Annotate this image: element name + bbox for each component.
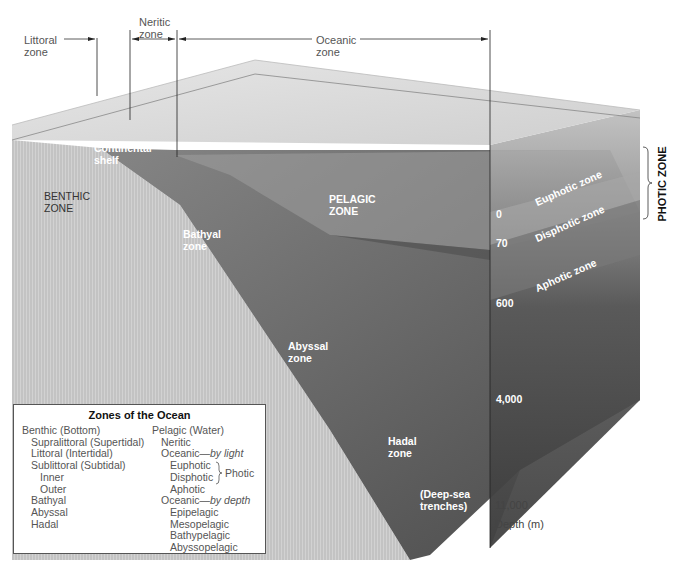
zones-legend: Zones of the Ocean Benthic (Bottom) Supr… [13,404,266,554]
depth-tick-11000: 11,000 [495,499,528,511]
bathyal-zone-label: Bathyal zone [183,228,221,252]
legend-item: Abyssal [22,507,144,519]
legend-item-emphasis: by light [210,447,243,459]
legend-item: Inner [22,472,144,484]
legend-benthic-column: Benthic (Bottom) Supralittoral (Supertid… [22,425,144,530]
legend-photic-label: Photic [225,467,254,479]
legend-title: Zones of the Ocean [14,409,265,421]
deep-sea-trenches-label: (Deep-sea trenches) [420,488,470,512]
legend-pelagic-column: Pelagic (Water) Neritic Oceanic—by light… [152,425,250,554]
neritic-zone-label: Neritic zone [139,16,170,40]
depth-tick-70: 70 [496,237,508,249]
photic-brace-icon [214,460,224,486]
photic-zone-label: PHOTIC ZONE [656,142,668,226]
legend-item-emphasis: by depth [210,494,250,506]
photic-brace [643,147,652,219]
hadal-zone-label: Hadal zone [388,435,417,459]
legend-benthic-heading: Benthic (Bottom) [22,425,144,437]
abyssal-zone-label: Abyssal zone [288,340,328,364]
littoral-zone-label: Littoral zone [24,34,57,58]
benthic-zone-label: BENTHIC ZONE [44,190,90,214]
legend-item: Hadal [22,519,144,531]
continental-shelf-label: Continental shelf [94,142,152,166]
legend-pelagic-heading: Pelagic (Water) [152,425,250,437]
depth-tick-4000: 4,000 [496,393,522,405]
legend-item: Abyssopelagic [152,542,250,554]
legend-item-text: Oceanic— [161,494,210,506]
legend-item-text: Oceanic— [161,447,210,459]
right-face [490,110,640,548]
depth-unit-label: Depth (m) [495,518,544,530]
legend-item: Epipelagic [152,507,250,519]
depth-tick-0: 0 [496,208,502,220]
pelagic-zone-label: PELAGIC ZONE [329,193,376,217]
oceanic-zone-label: Oceanic zone [316,34,356,58]
depth-tick-600: 600 [496,297,514,309]
